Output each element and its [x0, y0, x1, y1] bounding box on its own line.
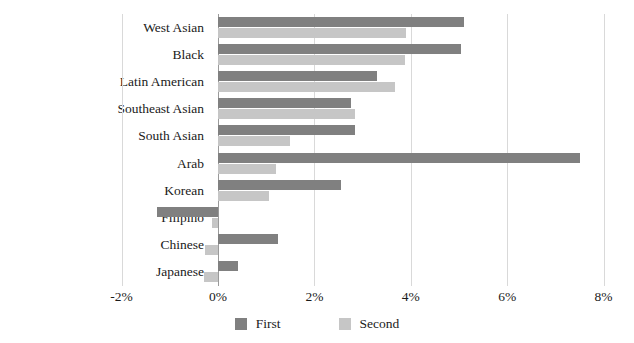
bar: [218, 71, 377, 81]
gridline: [411, 14, 412, 286]
gridline: [122, 14, 123, 286]
bar: [218, 109, 355, 119]
x-tick-label: 6%: [498, 288, 516, 306]
x-axis: -2%0%2%4%6%8%: [0, 288, 634, 310]
bar: [212, 218, 218, 228]
bar: [218, 55, 405, 65]
legend-label: Second: [360, 317, 400, 331]
x-tick-label: 0%: [209, 288, 227, 306]
bar: [218, 191, 269, 201]
gridline: [507, 14, 508, 286]
legend-entry[interactable]: Second: [339, 317, 400, 331]
legend-swatch-icon: [339, 318, 351, 330]
bar: [218, 136, 290, 146]
bar: [218, 234, 278, 244]
x-tick-label: 2%: [305, 288, 323, 306]
bar: [218, 125, 355, 135]
bar: [218, 261, 238, 271]
legend-label: First: [256, 317, 281, 331]
bar: [218, 153, 580, 163]
bar: [204, 272, 218, 282]
chart-legend: FirstSecond: [0, 312, 634, 336]
legend-entry[interactable]: First: [235, 317, 281, 331]
bar: [218, 82, 395, 92]
bar: [218, 180, 341, 190]
bar-chart: West AsianBlackLatin AmericanSoutheast A…: [0, 0, 634, 343]
bar: [157, 207, 218, 217]
bar: [205, 245, 218, 255]
bar: [218, 98, 351, 108]
plot-area: [0, 14, 634, 286]
x-tick-label: 8%: [595, 288, 613, 306]
bar: [218, 28, 406, 38]
bar: [218, 17, 464, 27]
gridline: [604, 14, 605, 286]
bar: [218, 164, 276, 174]
x-tick-label: 4%: [402, 288, 420, 306]
bar: [218, 44, 461, 54]
legend-swatch-icon: [235, 318, 247, 330]
x-tick-label: -2%: [110, 288, 133, 306]
